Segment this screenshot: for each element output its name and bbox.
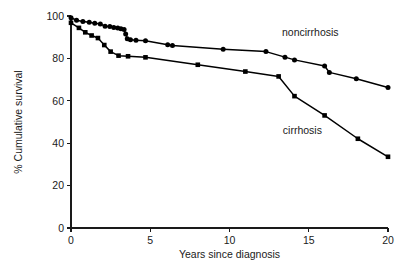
data-point-cirrhosis-10 xyxy=(196,62,201,67)
data-point-cirrhosis-8 xyxy=(126,54,131,59)
x-tick-label-20: 20 xyxy=(382,234,394,246)
series-label-noncirrhosis: noncirrhosis xyxy=(282,26,339,38)
data-point-noncirrhosis-16 xyxy=(143,38,148,43)
data-point-cirrhosis-3 xyxy=(89,33,94,38)
data-point-cirrhosis-16 xyxy=(386,154,391,159)
data-point-cirrhosis-0 xyxy=(69,20,74,25)
series-noncirrhosis xyxy=(69,15,391,90)
data-point-noncirrhosis-19 xyxy=(221,47,226,52)
data-point-cirrhosis-6 xyxy=(108,49,113,54)
data-point-noncirrhosis-2 xyxy=(80,19,85,24)
y-tick-label-80: 80 xyxy=(52,52,64,64)
data-point-noncirrhosis-6 xyxy=(103,24,108,29)
data-point-noncirrhosis-14 xyxy=(128,37,133,42)
data-point-noncirrhosis-23 xyxy=(322,64,327,69)
data-point-noncirrhosis-4 xyxy=(92,21,97,26)
data-point-noncirrhosis-11 xyxy=(122,27,127,32)
survival-chart: 020406080100 05101520 noncirrhosiscirrho… xyxy=(0,0,411,280)
x-tick-label-10: 10 xyxy=(224,234,236,246)
data-point-cirrhosis-2 xyxy=(83,30,88,35)
y-tick-label-60: 60 xyxy=(52,95,64,107)
data-point-cirrhosis-14 xyxy=(322,113,327,118)
chart-canvas: 020406080100 05101520 noncirrhosiscirrho… xyxy=(0,0,411,280)
data-point-noncirrhosis-18 xyxy=(170,43,175,48)
axes-group xyxy=(71,16,388,228)
data-point-noncirrhosis-26 xyxy=(386,85,391,90)
x-axis-tick-labels: 05101520 xyxy=(68,234,394,246)
data-point-noncirrhosis-5 xyxy=(98,22,103,27)
data-point-noncirrhosis-1 xyxy=(74,18,79,23)
data-point-cirrhosis-15 xyxy=(356,136,361,141)
data-point-cirrhosis-1 xyxy=(77,26,82,31)
x-axis-title: Years since diagnosis xyxy=(179,248,280,260)
data-point-noncirrhosis-0 xyxy=(69,15,74,20)
data-point-cirrhosis-5 xyxy=(102,43,107,48)
data-point-cirrhosis-4 xyxy=(96,36,101,41)
data-point-noncirrhosis-12 xyxy=(123,32,128,37)
y-tick-label-40: 40 xyxy=(52,137,64,149)
data-point-noncirrhosis-15 xyxy=(133,38,138,43)
series-line-cirrhosis xyxy=(71,23,388,157)
data-point-noncirrhosis-24 xyxy=(327,70,332,75)
y-tick-label-0: 0 xyxy=(58,222,64,234)
data-point-cirrhosis-12 xyxy=(276,74,281,79)
data-point-noncirrhosis-3 xyxy=(87,20,92,25)
data-point-cirrhosis-7 xyxy=(116,53,121,58)
x-tick-label-5: 5 xyxy=(147,234,153,246)
data-point-cirrhosis-11 xyxy=(243,69,248,74)
x-tick-label-0: 0 xyxy=(68,234,74,246)
x-tick-label-15: 15 xyxy=(303,234,315,246)
data-point-noncirrhosis-25 xyxy=(354,76,359,81)
y-tick-label-100: 100 xyxy=(46,10,64,22)
data-series-group xyxy=(69,15,391,159)
y-tick-label-20: 20 xyxy=(52,179,64,191)
series-cirrhosis xyxy=(69,20,391,159)
series-label-cirrhosis: cirrhosis xyxy=(283,124,322,136)
data-point-noncirrhosis-21 xyxy=(282,55,287,60)
data-point-cirrhosis-13 xyxy=(292,94,297,99)
y-axis-title: % Cumulative survival xyxy=(12,70,24,173)
data-point-cirrhosis-9 xyxy=(143,55,148,60)
data-point-noncirrhosis-22 xyxy=(292,57,297,62)
data-point-noncirrhosis-20 xyxy=(263,49,268,54)
y-axis-tick-labels: 020406080100 xyxy=(46,10,64,234)
data-point-noncirrhosis-17 xyxy=(165,42,170,47)
